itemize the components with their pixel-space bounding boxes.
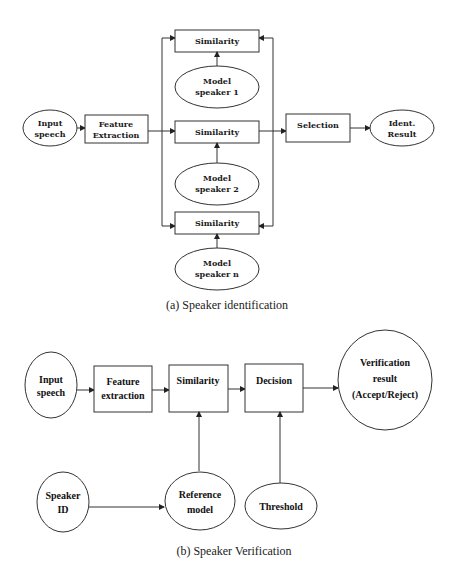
speaker-identification-diagram: Input speech Feature Extraction Similari… (23, 30, 434, 312)
input-speech-node-a: Input speech (23, 110, 77, 146)
model-speaker-n-label-line2: speaker n (195, 269, 239, 279)
input-speech-b-label-line2: speech (37, 387, 66, 398)
model-speaker-2-label-line2: speaker 2 (195, 184, 239, 194)
input-speech-label-line1: Input (38, 118, 63, 128)
ident-result-label-line2: Result (388, 129, 417, 139)
feature-extraction-b-label-line2: extraction (101, 390, 145, 401)
ident-result-label-line1: Ident. (389, 118, 416, 128)
verification-result-node: Verification result (Accept/Reject) (338, 330, 432, 430)
verification-result-label-line1: Verification (360, 357, 411, 368)
similarity-node-b: Similarity (169, 365, 228, 412)
model-speaker-1-node: Model speaker 1 (175, 66, 259, 108)
similarity-1-node: Similarity (175, 30, 259, 52)
decision-label: Decision (256, 375, 293, 386)
input-speech-label-line2: speech (35, 129, 66, 139)
threshold-label: Threshold (259, 501, 303, 512)
similarity-n-label: Similarity (195, 218, 239, 228)
model-speaker-1-label-line2: speaker 1 (195, 87, 239, 97)
selection-node: Selection (286, 114, 350, 142)
selection-label: Selection (297, 120, 339, 130)
feature-extraction-label-line2: Extraction (93, 130, 140, 140)
decision-node: Decision (245, 364, 303, 412)
input-speech-b-label-line1: Input (39, 374, 64, 385)
similarity-b-label: Similarity (177, 375, 220, 386)
speaker-id-node: Speaker ID (37, 472, 89, 532)
reference-model-node: Reference model (165, 472, 235, 530)
feature-extraction-node-b: Feature extraction (94, 366, 152, 412)
speaker-recognition-diagram: Input speech Feature Extraction Similari… (0, 0, 454, 571)
feature-extraction-node-a: Feature Extraction (85, 115, 148, 143)
ident-result-node: Ident. Result (370, 110, 434, 146)
similarity-2-node: Similarity (175, 121, 259, 143)
verification-result-label-line3: (Accept/Reject) (352, 389, 418, 401)
model-speaker-n-node: Model speaker n (175, 248, 259, 290)
feature-extraction-label-line1: Feature (99, 119, 133, 129)
speaker-verification-diagram: Input speech Feature extraction Similari… (25, 330, 432, 558)
speaker-id-label-line2: ID (57, 504, 68, 515)
caption-speaker-identification: (a) Speaker identification (166, 298, 288, 312)
model-speaker-2-label-line1: Model (203, 173, 231, 183)
speaker-id-label-line1: Speaker (46, 490, 82, 501)
caption-speaker-verification: (b) Speaker Verification (176, 544, 291, 558)
model-speaker-n-label-line1: Model (203, 258, 231, 268)
similarity-2-label: Similarity (195, 127, 239, 137)
verification-result-label-line2: result (373, 373, 398, 384)
feature-extraction-b-label-line1: Feature (106, 376, 140, 387)
threshold-node: Threshold (245, 483, 317, 529)
similarity-1-label: Similarity (195, 36, 239, 46)
model-speaker-1-label-line1: Model (203, 76, 231, 86)
model-speaker-2-node: Model speaker 2 (175, 163, 259, 205)
reference-model-label-line2: model (187, 504, 213, 515)
similarity-n-node: Similarity (175, 212, 259, 234)
input-speech-node-b: Input speech (25, 352, 77, 418)
reference-model-label-line1: Reference (179, 489, 222, 500)
